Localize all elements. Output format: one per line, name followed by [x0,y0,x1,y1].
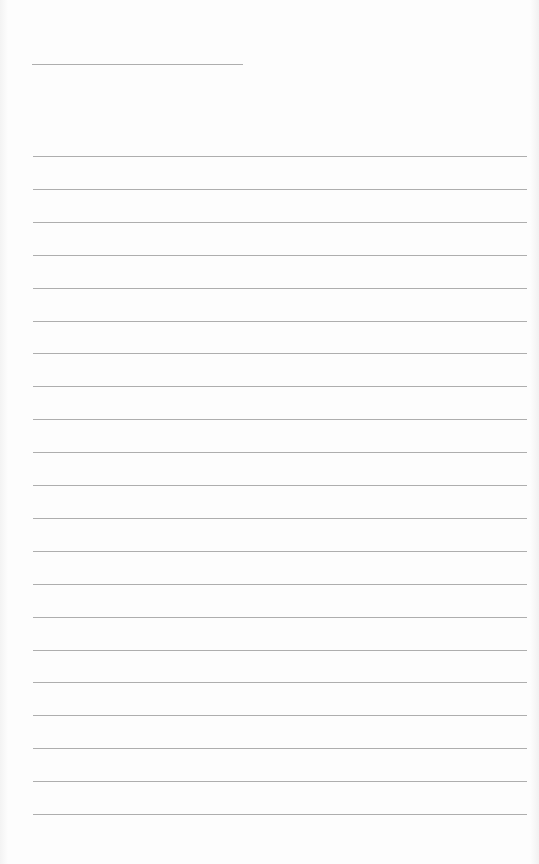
ruled-line [33,518,527,519]
ruled-line [33,189,527,190]
ruled-line [33,321,527,322]
ruled-line [33,650,527,651]
ruled-line [33,452,527,453]
ruled-line [33,255,527,256]
ruled-line [33,814,527,815]
ruled-line [33,584,527,585]
ruled-line [33,781,527,782]
ruled-line [33,715,527,716]
ruled-line [33,353,527,354]
ruled-line [33,288,527,289]
lined-paper [0,0,539,864]
ruled-line [33,386,527,387]
ruled-line [33,419,527,420]
ruled-line [33,617,527,618]
ruled-line [33,748,527,749]
ruled-line [33,551,527,552]
ruled-line [33,682,527,683]
header-line [32,64,243,65]
ruled-line [33,222,527,223]
ruled-line [33,485,527,486]
ruled-line [33,156,527,157]
